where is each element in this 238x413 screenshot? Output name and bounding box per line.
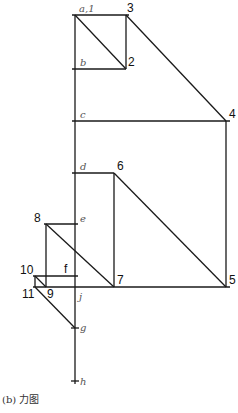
label-2: 2 xyxy=(128,55,135,69)
label-9: 9 xyxy=(47,287,54,301)
line-3-4 xyxy=(126,15,226,121)
label-10: 10 xyxy=(20,263,34,277)
label-a1: a,1 xyxy=(79,3,95,14)
line-10-9 xyxy=(35,276,46,287)
label-e: e xyxy=(80,213,86,224)
line-8-7 xyxy=(46,224,114,287)
label-h: h xyxy=(80,376,86,387)
label-c: c xyxy=(80,109,86,120)
label-f: f xyxy=(64,262,68,276)
label-5: 5 xyxy=(229,273,236,287)
label-g: g xyxy=(80,322,86,333)
label-3: 3 xyxy=(127,1,134,15)
label-6: 6 xyxy=(117,159,124,173)
label-7: 7 xyxy=(117,273,124,287)
label-11: 11 xyxy=(22,287,35,301)
label-4: 4 xyxy=(229,107,236,121)
figure-caption: (b) 力图 xyxy=(2,391,39,406)
force-diagram: a,1 b c d e f j g h 3 2 4 5 6 7 8 9 10 1… xyxy=(0,0,238,413)
line-6-5 xyxy=(114,173,226,287)
label-b: b xyxy=(80,57,86,68)
label-d: d xyxy=(80,161,86,172)
label-8: 8 xyxy=(34,211,41,225)
label-j: j xyxy=(77,291,82,302)
line-11-g xyxy=(35,287,75,328)
